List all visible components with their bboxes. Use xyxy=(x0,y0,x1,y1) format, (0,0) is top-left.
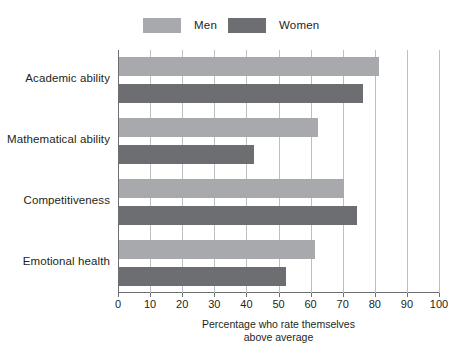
bar-women-0 xyxy=(119,84,363,103)
y-axis-label-2: Competitiveness xyxy=(23,194,110,206)
gridline-90 xyxy=(407,50,408,293)
tick-mark-10 xyxy=(150,293,151,297)
x-axis-title: Percentage who rate themselves above ave… xyxy=(118,318,439,344)
tick-mark-90 xyxy=(407,293,408,297)
bar-men-2 xyxy=(119,179,344,198)
x-tick-label-100: 100 xyxy=(430,298,448,310)
y-axis-category-labels: Academic abilityMathematical abilityComp… xyxy=(0,50,110,293)
x-tick-label-80: 80 xyxy=(369,298,381,310)
bar-women-1 xyxy=(119,145,254,164)
tick-mark-100 xyxy=(439,293,440,297)
legend-item-men: Men xyxy=(143,14,217,36)
bar-men-0 xyxy=(119,57,379,76)
gridline-80 xyxy=(375,50,376,293)
tick-mark-0 xyxy=(118,293,119,297)
x-tick-label-50: 50 xyxy=(272,298,284,310)
bar-women-2 xyxy=(119,206,357,225)
x-tick-label-10: 10 xyxy=(144,298,156,310)
x-tick-label-90: 90 xyxy=(401,298,413,310)
legend-label-men: Men xyxy=(194,19,217,31)
y-axis-label-3: Emotional health xyxy=(23,255,110,267)
x-axis-title-line2: above average xyxy=(118,331,439,344)
legend-swatch-women xyxy=(228,18,266,33)
tick-mark-70 xyxy=(343,293,344,297)
x-axis-title-line1: Percentage who rate themselves xyxy=(118,318,439,331)
x-tick-label-40: 40 xyxy=(240,298,252,310)
tick-mark-50 xyxy=(279,293,280,297)
tick-mark-30 xyxy=(214,293,215,297)
legend-item-women: Women xyxy=(228,14,319,36)
x-tick-label-70: 70 xyxy=(337,298,349,310)
bar-men-3 xyxy=(119,240,315,259)
legend-label-women: Women xyxy=(279,19,319,31)
x-tick-label-0: 0 xyxy=(115,298,121,310)
tick-mark-80 xyxy=(375,293,376,297)
bar-women-3 xyxy=(119,267,286,286)
y-axis-label-0: Academic ability xyxy=(25,72,110,84)
gridline-100 xyxy=(439,50,440,293)
tick-mark-40 xyxy=(246,293,247,297)
bar-men-1 xyxy=(119,118,318,137)
tick-mark-20 xyxy=(182,293,183,297)
y-axis-label-1: Mathematical ability xyxy=(7,133,110,145)
plot-area: 0102030405060708090100 xyxy=(118,50,439,293)
tick-mark-60 xyxy=(311,293,312,297)
legend-swatch-men xyxy=(143,18,181,33)
bar-chart: Men Women Academic abilityMathematical a… xyxy=(0,0,476,358)
x-tick-label-60: 60 xyxy=(304,298,316,310)
chart-legend: Men Women xyxy=(0,14,476,40)
x-tick-label-20: 20 xyxy=(176,298,188,310)
x-tick-label-30: 30 xyxy=(208,298,220,310)
